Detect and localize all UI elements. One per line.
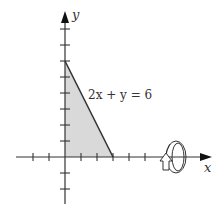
equation-label: 2x + y = 6 (88, 88, 152, 102)
x-axis-label: x (204, 160, 212, 175)
diagram-canvas: y x 2x + y = 6 (0, 0, 224, 216)
y-axis-label: y (71, 7, 80, 22)
y-axis-arrow-icon (61, 11, 69, 23)
